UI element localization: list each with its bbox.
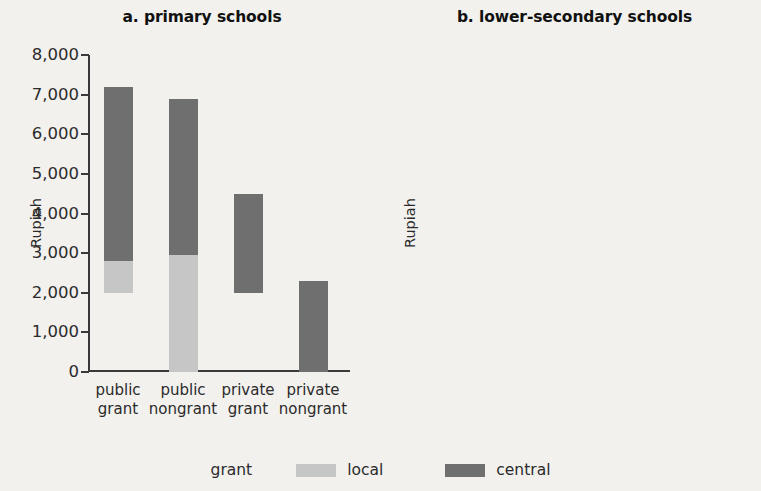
y-axis-tick [81,213,89,215]
panel-title-a: a. primary schools [0,8,380,26]
y-axis-tick-label: 3,000 [32,245,79,262]
y-axis-tick [81,133,89,135]
x-axis-category-label: publicnongrant [149,381,217,419]
y-axis-tick-label: 0 [69,364,80,381]
y-axis-tick-label: 2,000 [32,285,79,302]
legend-swatch-central [445,464,485,477]
legend-swatch-local [296,464,336,477]
bar-private-nongrant [299,281,328,372]
y-axis-tick-label: 1,000 [32,324,79,341]
chart-panel-primary-schools: a. primary schools Rupiah 01,0002,0003,0… [0,0,380,432]
bar-segment-central [169,99,198,256]
y-axis-tick [81,331,89,333]
bar-private-grant [234,194,263,293]
legend-label-central: central [496,461,550,479]
legend-item-central: central [445,461,550,479]
chart-legend: grant local central [0,455,761,485]
x-axis-category-label: privatenongrant [279,381,347,419]
y-axis-tick-label: 4,000 [32,205,79,222]
y-axis-tick [81,252,89,254]
bar-segment-local [104,261,133,293]
y-axis-tick [81,173,89,175]
legend-item-local: local [296,461,383,479]
legend-label-local: local [347,461,383,479]
y-axis-tick-label: 6,000 [32,126,79,143]
plot-area-a: 01,0002,0003,0004,0005,0006,0007,0008,00… [88,55,350,372]
bar-segment-central [234,194,263,293]
y-axis-tick [81,54,89,56]
legend-title: grant [211,461,253,479]
y-axis-tick [81,371,89,373]
bar-segment-central [299,281,328,372]
bar-public-nongrant [169,99,198,372]
x-axis-category-label: privategrant [221,381,274,419]
bar-segment-central [104,87,133,261]
bar-public-grant [104,87,133,293]
y-axis-tick-label: 5,000 [32,166,79,183]
y-axis-tick [81,94,89,96]
panel-title-b: b. lower-secondary schools [380,8,761,26]
figure-root: a. primary schools Rupiah 01,0002,0003,0… [0,0,761,491]
chart-panel-lower-secondary-schools: b. lower-secondary schools Rupiah 020,00… [380,0,761,432]
y-axis-tick-label: 8,000 [32,47,79,64]
y-axis-title-b: Rupiah [402,198,418,248]
x-axis-category-label: publicgrant [95,381,140,419]
y-axis-tick [81,292,89,294]
y-axis-tick-label: 7,000 [32,86,79,103]
bar-segment-local [169,255,198,372]
